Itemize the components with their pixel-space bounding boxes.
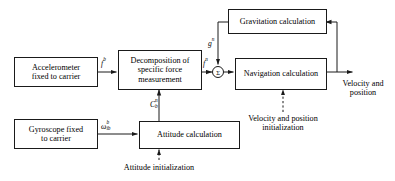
signal-label-specific-force-body: fb xyxy=(101,60,103,68)
annotation-velocity-position-initialization: Velocity and position initialization xyxy=(226,114,340,133)
block-decomposition-line1: Decomposition of xyxy=(131,56,190,65)
summing-junction[interactable]: Σ xyxy=(212,66,224,78)
block-decomposition-line2: specific force xyxy=(131,65,190,74)
block-navigation-calculation[interactable]: Navigation calculation xyxy=(235,58,327,90)
block-navigation-calculation-label: Navigation calculation xyxy=(244,69,318,78)
annotation-attitude-initialization: Attitude initialization xyxy=(104,163,214,172)
annotation-output-line1: Velocity and xyxy=(333,79,393,88)
block-gravitation-calculation-label: Gravitation calculation xyxy=(240,17,315,26)
annotation-output-line2: position xyxy=(333,88,393,97)
summing-junction-symbol: Σ xyxy=(216,69,220,76)
block-gyroscope[interactable]: Gyroscope fixed to carrier xyxy=(14,119,98,149)
annotation-output-velocity-position: Velocity and position xyxy=(333,79,393,98)
signal-label-gravity-nav: gn xyxy=(208,40,212,48)
block-accelerometer[interactable]: Accelerometer fixed to carrier xyxy=(14,57,98,87)
block-accelerometer-line2: fixed to carrier xyxy=(32,72,81,81)
block-attitude-calculation-label: Attitude calculation xyxy=(157,130,222,139)
signal-label-specific-force-nav: fn xyxy=(203,60,205,68)
edge-navigation-feedback-to-gravitation xyxy=(326,22,338,72)
block-gravitation-calculation[interactable]: Gravitation calculation xyxy=(228,9,327,34)
block-gyroscope-line2: to carrier xyxy=(29,134,83,143)
block-decomposition-line3: measurement xyxy=(131,75,190,84)
annotation-vp-init-line1: Velocity and position xyxy=(226,114,340,123)
block-decomposition[interactable]: Decomposition of specific force measurem… xyxy=(118,50,202,90)
signal-label-angular-rate: ωbib xyxy=(101,123,106,131)
block-diagram-canvas: Accelerometer fixed to carrier Gyroscope… xyxy=(0,0,395,181)
signal-label-dcm: Cnb xyxy=(150,101,155,109)
annotation-vp-init-line2: initialization xyxy=(226,123,340,132)
block-accelerometer-line1: Accelerometer xyxy=(32,63,81,72)
annotation-attitude-initialization-text: Attitude initialization xyxy=(104,163,214,172)
block-gyroscope-line1: Gyroscope fixed xyxy=(29,125,83,134)
block-attitude-calculation[interactable]: Attitude calculation xyxy=(139,121,240,149)
